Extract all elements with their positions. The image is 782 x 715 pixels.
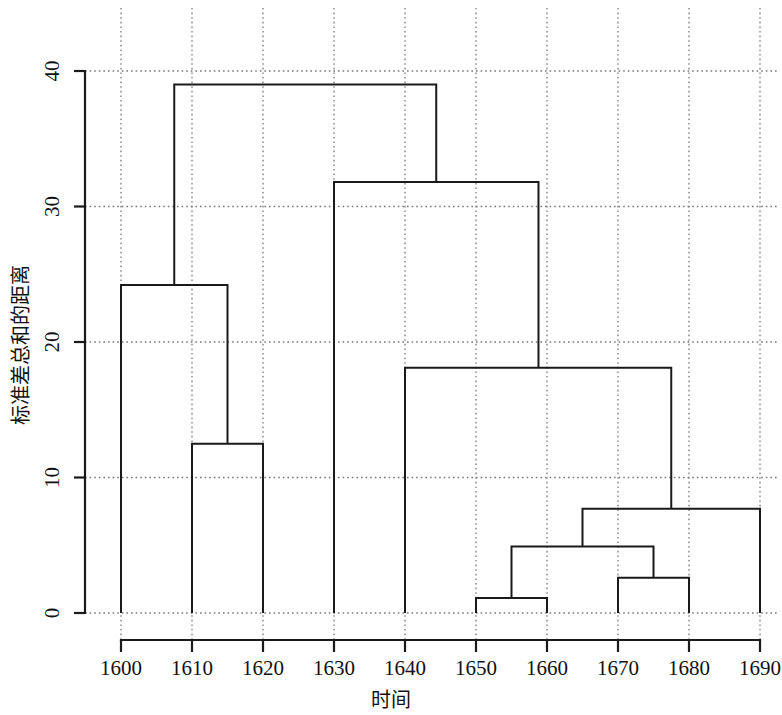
horizontal-gridlines xyxy=(85,71,778,613)
vertical-gridlines xyxy=(121,8,760,640)
y-axis-ticks xyxy=(74,71,85,613)
x-tick-label-1610: 1610 xyxy=(171,656,213,680)
x-tick-label-1640: 1640 xyxy=(384,656,426,680)
dendrogram-link-M4 xyxy=(583,509,761,613)
x-tick-label-1660: 1660 xyxy=(526,656,568,680)
x-axis-title: 时间 xyxy=(371,689,411,711)
dendrogram-link-M7 xyxy=(121,285,228,613)
y-tick-label-0: 0 xyxy=(40,608,64,619)
x-axis-tick-labels: 1600161016201630164016501660167016801690 xyxy=(100,656,781,680)
x-tick-label-1680: 1680 xyxy=(668,656,710,680)
dendrogram-link-M8 xyxy=(334,182,538,613)
y-tick-label-30: 30 xyxy=(40,196,64,217)
y-axis-tick-labels: 010203040 xyxy=(40,61,64,619)
dendrogram-link-M5 xyxy=(192,444,263,613)
y-tick-label-40: 40 xyxy=(40,61,64,82)
x-tick-label-1600: 1600 xyxy=(100,656,142,680)
dendrogram-link-M3 xyxy=(512,547,654,598)
x-axis-ticks xyxy=(121,640,760,652)
y-tick-label-10: 10 xyxy=(40,467,64,488)
dendrogram-link-M2 xyxy=(618,578,689,613)
x-tick-label-1690: 1690 xyxy=(739,656,781,680)
dendrogram-link-M1 xyxy=(476,598,547,613)
dendrogram-link-M9 xyxy=(174,85,436,286)
x-axis: 1600161016201630164016501660167016801690 xyxy=(100,640,781,680)
y-axis-title: 标准差总和的距离 xyxy=(10,265,32,425)
y-tick-label-20: 20 xyxy=(40,332,64,353)
dendrogram-plot: 010203040 160016101620163016401650166016… xyxy=(0,0,782,715)
x-tick-label-1670: 1670 xyxy=(597,656,639,680)
x-tick-label-1630: 1630 xyxy=(313,656,355,680)
dendrogram-link-M6 xyxy=(405,368,671,613)
dendrogram-figure: 010203040 160016101620163016401650166016… xyxy=(0,0,782,715)
dendrogram-links xyxy=(121,85,760,613)
x-tick-label-1620: 1620 xyxy=(242,656,284,680)
y-axis: 010203040 xyxy=(40,61,85,619)
x-tick-label-1650: 1650 xyxy=(455,656,497,680)
